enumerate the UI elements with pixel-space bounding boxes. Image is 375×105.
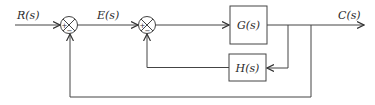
output-label: C(s) [338,9,361,22]
inner-feedback-return-arrow [147,34,229,68]
minus-sign: − [67,27,73,35]
summing-junction-2: + − [139,17,156,36]
feedback-block-label: H(s) [235,62,260,75]
input-label: R(s) [16,9,40,22]
inner-feedback-arrow [267,25,288,68]
summing-junction-1: + − [61,17,78,36]
forward-block: G(s) [230,6,267,44]
block-diagram: R(s) + − E(s) + − G(s) C(s) H(s) [0,0,375,105]
outer-feedback-loop [70,25,311,97]
error-signal: E(s) [78,9,139,25]
minus-sign: − [145,27,151,35]
outer-feedback-arrow [70,25,311,97]
output-signal: C(s) [267,9,364,25]
forward-block-label: G(s) [237,19,260,32]
error-label: E(s) [96,9,119,22]
input-signal: R(s) [15,9,60,25]
